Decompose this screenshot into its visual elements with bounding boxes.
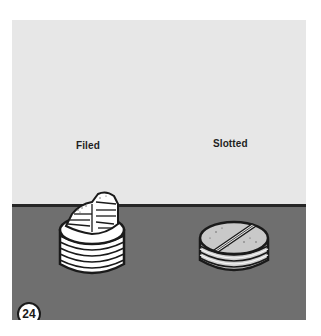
backdrop-wall xyxy=(12,20,306,204)
slotted-plug-icon xyxy=(196,216,272,280)
figure-number: 24 xyxy=(22,307,35,320)
slotted-label: Slotted xyxy=(213,138,248,149)
filed-label: Filed xyxy=(76,140,100,151)
filed-plug-icon xyxy=(52,190,132,282)
illustration-panel: Filed Slotted xyxy=(12,20,306,320)
figure-number-badge: 24 xyxy=(17,302,41,320)
